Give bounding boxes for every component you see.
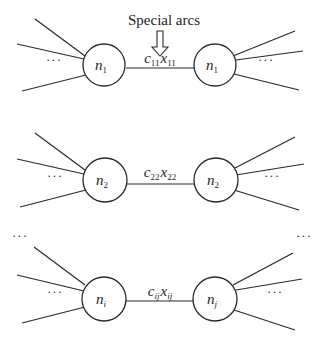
outgoing-edge [234,74,299,90]
incoming-edge [34,247,85,285]
outgoing-edge [233,137,295,169]
ellipsis: ··· [264,168,280,183]
outgoing-edge [234,310,295,330]
ellipsis: ··· [46,52,62,67]
ellipsis: ··· [258,52,274,67]
incoming-edge [35,19,85,56]
ellipsis: ··· [267,284,283,299]
network-diagram: Special arcs ··· ··· c11x11 n1 n1 ··· [0,0,320,345]
incoming-edge [22,307,85,323]
ellipsis: ··· [47,168,63,183]
row-1: ··· ··· c11x11 n1 n1 [17,19,303,91]
outgoing-edge [234,190,299,210]
outgoing-edge [233,253,293,285]
special-arcs-label: Special arcs [128,12,200,28]
arc-label-2: c22x22 [144,164,176,182]
row-ij: ··· ··· cijxij ni nj [17,247,302,330]
arc-label-ij: cijxij [148,283,173,301]
continuation-ellipsis-right: ··· [296,228,312,243]
incoming-edge [20,190,86,207]
incoming-edge [22,75,86,91]
ellipsis: ··· [47,284,63,299]
continuation-ellipsis-left: ··· [12,228,28,243]
arc-label-1: c11x11 [144,50,176,68]
row-2: ··· ··· c22x22 n2 n2 [17,133,304,210]
